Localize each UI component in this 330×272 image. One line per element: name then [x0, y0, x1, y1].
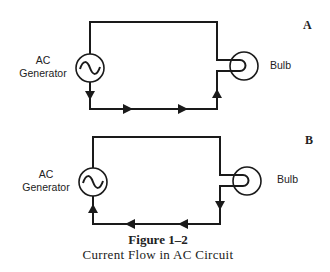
figure-number: Figure 1–2 — [128, 232, 187, 247]
panel-a-arrow-down-icon — [85, 91, 95, 100]
panel-b-arrow-left-2-icon — [125, 219, 135, 229]
panel-b-label: B — [305, 133, 313, 147]
panel-b-generator-label-line2: Generator — [22, 181, 70, 193]
panel-b-generator-label-line1: AC — [39, 168, 54, 180]
panel-a-arrow-up-icon — [212, 89, 222, 98]
figure-caption: Current Flow in AC Circuit — [83, 247, 234, 262]
panel-b-bulb-label: Bulb — [277, 173, 298, 185]
panel-b-generator-icon — [79, 168, 107, 196]
panel-a: AC Generator Bulb A — [19, 18, 312, 114]
panel-b-arrow-down-icon — [215, 201, 225, 210]
panel-b-top-wire — [93, 137, 241, 175]
panel-b-arrow-up-icon — [88, 204, 98, 213]
panel-a-generator-label-line1: AC — [36, 54, 51, 66]
panel-a-label: A — [303, 18, 312, 32]
ac-circuit-diagram: AC Generator Bulb A AC Generator Bulb B … — [0, 0, 330, 272]
panel-a-top-wire — [90, 22, 238, 60]
panel-a-arrow-right-1-icon — [123, 104, 133, 114]
panel-a-arrow-right-2-icon — [178, 104, 188, 114]
panel-b-bulb-icon — [220, 167, 261, 195]
panel-a-bulb-icon — [217, 52, 258, 80]
panel-a-generator-icon — [76, 54, 104, 82]
panel-a-bottom-wire — [90, 71, 238, 109]
panel-b-arrow-left-1-icon — [178, 219, 188, 229]
panel-b: AC Generator Bulb B — [22, 133, 313, 229]
panel-a-generator-label-line2: Generator — [19, 67, 67, 79]
panel-a-bulb-label: Bulb — [270, 59, 291, 71]
